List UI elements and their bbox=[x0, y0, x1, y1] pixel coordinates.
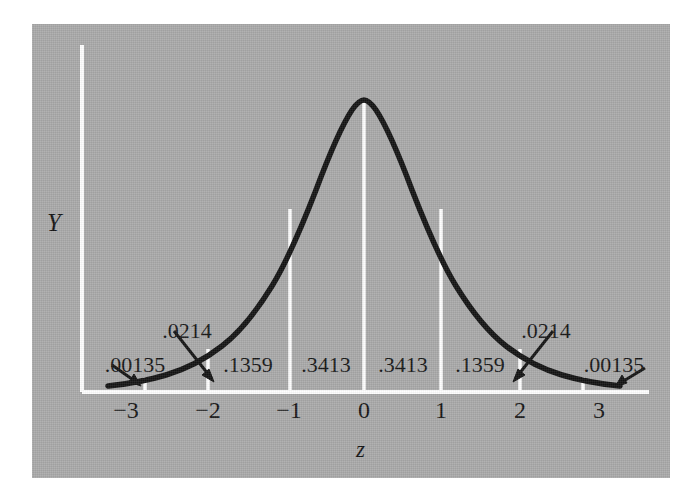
gridlines bbox=[145, 102, 583, 392]
area-proportion-label: .3413 bbox=[378, 354, 428, 376]
x-axis-label: z bbox=[356, 438, 365, 461]
normal-curve-plot bbox=[0, 0, 697, 501]
x-tick-label: −3 bbox=[113, 398, 139, 422]
x-tick-label: −2 bbox=[195, 398, 221, 422]
x-tick-label: −1 bbox=[276, 398, 302, 422]
area-proportion-label: .00135 bbox=[105, 354, 166, 376]
area-proportion-label: .0214 bbox=[162, 320, 212, 342]
figure-page: Y z −3−2−10123 .00135.0214.1359.3413.341… bbox=[0, 0, 697, 501]
x-tick-label: 0 bbox=[358, 398, 370, 422]
area-proportion-label: .1359 bbox=[455, 354, 505, 376]
area-proportion-label: .3413 bbox=[301, 354, 351, 376]
area-proportion-label: .0214 bbox=[521, 320, 571, 342]
area-proportion-label: .1359 bbox=[223, 354, 273, 376]
x-tick-label: 2 bbox=[514, 398, 526, 422]
y-axis-label: Y bbox=[47, 210, 61, 235]
area-proportion-label: .00135 bbox=[584, 354, 645, 376]
x-tick-label: 3 bbox=[593, 398, 605, 422]
x-tick-label: 1 bbox=[435, 398, 447, 422]
